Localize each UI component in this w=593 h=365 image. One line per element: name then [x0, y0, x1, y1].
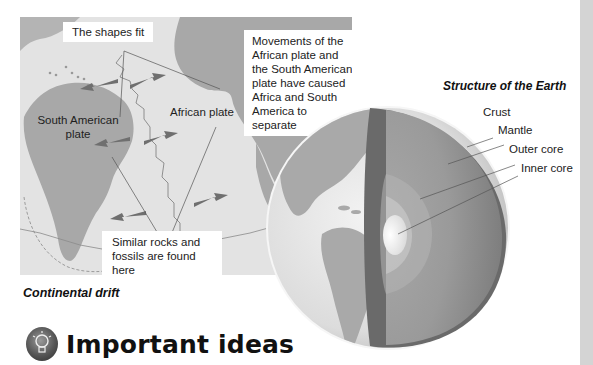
page-edge-strip — [580, 0, 593, 365]
earth-structure-globe — [262, 84, 518, 356]
layer-label-outer-core: Outer core — [509, 143, 563, 155]
earth-structure-title: Structure of the Earth — [443, 79, 566, 93]
label-similar-rocks: Similar rocks and fossils are found here — [102, 231, 222, 275]
label-south-american-plate: South American plate — [36, 113, 120, 141]
label-shapes-fit: The shapes fit — [63, 22, 153, 42]
lightbulb-icon — [26, 327, 58, 361]
layer-label-mantle: Mantle — [498, 124, 533, 136]
label-line: Movements of the — [252, 34, 352, 48]
label-line: fossils are found here — [112, 249, 212, 275]
layer-label-inner-core: Inner core — [521, 162, 573, 174]
section-heading-text: Important ideas — [66, 330, 294, 359]
label-line: plate — [36, 127, 120, 141]
label-african-plate: African plate — [170, 105, 234, 119]
label-line: South American — [36, 113, 120, 127]
label-line: the South American — [252, 62, 352, 76]
label-text: African plate — [170, 106, 234, 118]
label-text: The shapes fit — [72, 26, 144, 38]
caption-continental-drift: Continental drift — [23, 286, 120, 300]
section-heading: Important ideas — [26, 326, 294, 362]
label-line: African plate and — [252, 48, 352, 62]
label-line: Similar rocks and — [112, 235, 212, 249]
layer-label-crust: Crust — [483, 106, 510, 118]
